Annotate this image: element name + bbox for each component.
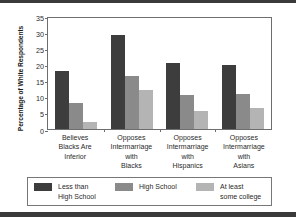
y-tick-label: 25 [24,46,48,55]
bar-group [104,18,160,129]
bar-set [166,18,208,129]
legend-label-line: At least [220,182,261,192]
x-axis-category-line: Opposes [160,133,216,142]
x-axis-category-line: Intermarriage [160,142,216,151]
bar[interactable] [180,95,194,129]
chart-figure: Percentage of White Respondents 05101520… [0,0,296,221]
x-axis-category-line: Opposes [216,133,272,142]
y-tick-label: 0 [24,127,48,136]
plot-area: Percentage of White Respondents 05101520… [47,17,272,130]
bar[interactable] [111,35,125,129]
x-tick-mark [215,129,216,132]
legend-label: Less thanHigh School [58,182,96,201]
x-axis-category-line: Blacks [103,161,159,170]
x-tick-mark [104,129,105,132]
bar[interactable] [250,108,264,129]
x-axis-category-line: Opposes [103,133,159,142]
bar-set [111,18,153,129]
legend-item[interactable]: Less thanHigh School [28,182,109,201]
bar-groups [48,18,271,129]
bar[interactable] [194,111,208,129]
x-tick-mark [160,129,161,132]
bar[interactable] [69,103,83,129]
legend-item[interactable]: At leastsome college [190,182,271,201]
legend-swatch-icon [115,183,133,191]
x-axis-labels: BelievesBlacks AreInferiorOpposesInterma… [47,133,272,175]
x-axis-category-line: Hispanics [160,161,216,170]
legend-label-line: High School [139,182,177,192]
x-axis-category-line: Intermarriage [216,142,272,151]
legend-swatch-icon [34,183,52,191]
y-tick-label: 15 [24,78,48,87]
bar-group [215,18,271,129]
x-axis-category-label: OpposesIntermarriagewithHispanics [160,133,216,175]
x-axis-category-line: Intermarriage [103,142,159,151]
x-axis-category-label: BelievesBlacks AreInferior [47,133,103,175]
bar[interactable] [166,63,180,129]
x-axis-category-line: Inferior [47,152,103,161]
page-rule-bottom [0,212,296,217]
legend-label-line: Less than [58,182,96,192]
x-axis-category-line: with [216,152,272,161]
page-rule-top [0,0,296,3]
y-tick-label: 5 [24,110,48,119]
x-axis-category-line: Asians [216,161,272,170]
x-axis-category-label: OpposesIntermarriagewithBlacks [103,133,159,175]
y-tick-label: 10 [24,94,48,103]
legend-label: At leastsome college [220,182,261,201]
legend-item[interactable]: High School [109,182,190,192]
bar-set [222,18,264,129]
x-axis-category-line: Blacks Are [47,142,103,151]
chart-legend: Less thanHigh SchoolHigh SchoolAt leasts… [27,177,272,206]
y-tick-label: 20 [24,62,48,71]
bar-group [48,18,104,129]
legend-label-line: High School [58,192,96,202]
legend-label-line: some college [220,192,261,202]
bar[interactable] [125,76,139,129]
legend-swatch-icon [196,183,214,191]
bar[interactable] [236,94,250,130]
x-axis-category-line: with [160,152,216,161]
bar[interactable] [222,65,236,129]
bar-group [160,18,216,129]
x-axis-category-line: with [103,152,159,161]
bar[interactable] [139,90,153,129]
bar[interactable] [83,122,97,129]
y-tick-label: 30 [24,30,48,39]
y-tick-label: 35 [24,14,48,23]
legend-label: High School [139,182,177,192]
bar[interactable] [55,71,69,129]
x-axis-category-line: Believes [47,133,103,142]
bar-set [55,18,97,129]
x-axis-category-label: OpposesIntermarriagewithAsians [216,133,272,175]
